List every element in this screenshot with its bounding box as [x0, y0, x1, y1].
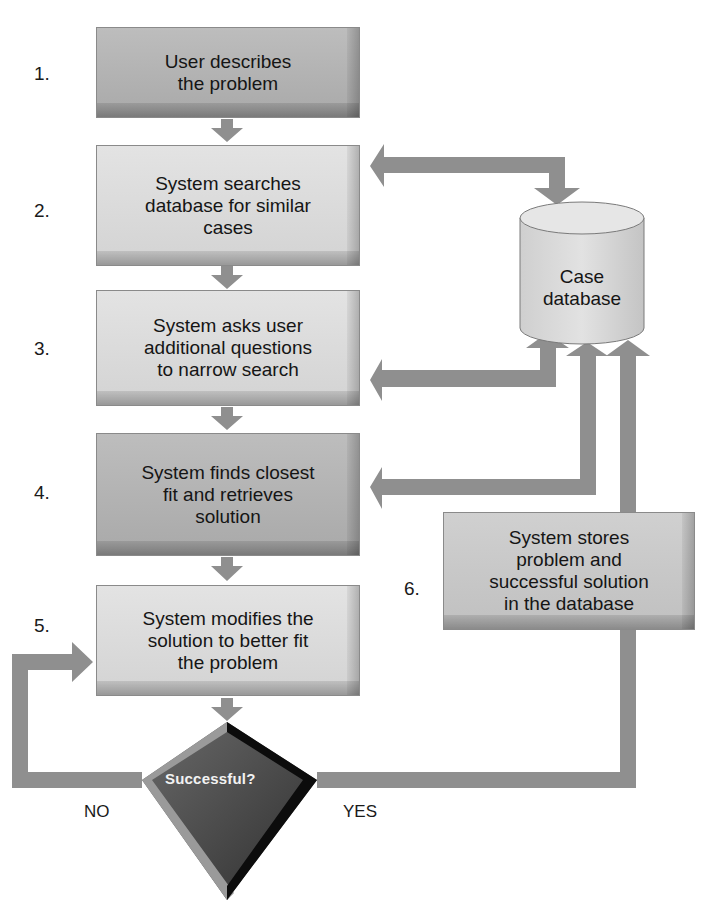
step-6-box: System stores problem and successful sol…	[443, 512, 695, 630]
step-5-box: System modifies the solution to better f…	[96, 585, 360, 696]
database-label: Case database	[520, 266, 644, 310]
step-4-box: System finds closest fit and retrieves s…	[96, 433, 360, 556]
step-3-box: System asks user additional questions to…	[96, 290, 360, 406]
step-6-text: System stores problem and successful sol…	[473, 527, 664, 615]
step-number: 6.	[404, 578, 420, 600]
down-arrow-icon	[211, 119, 243, 142]
decision-label: Successful?	[165, 770, 256, 787]
step-3-text: System asks user additional questions to…	[128, 315, 328, 381]
yes-branch-label: YES	[343, 802, 377, 822]
step-number: 3.	[34, 338, 50, 360]
no-branch-label: NO	[84, 802, 110, 822]
arrow-database-to-step4	[370, 342, 608, 509]
step-number: 4.	[34, 482, 50, 504]
down-arrow-icon	[211, 698, 243, 721]
down-arrow-icon	[211, 407, 243, 430]
step-2-box: System searches database for similar cas…	[96, 145, 360, 266]
step-1-box: User describes the problem	[96, 27, 360, 118]
step-1-text: User describes the problem	[149, 51, 308, 95]
decision-diamond-icon	[142, 722, 317, 900]
bidirectional-arrow-database-step2	[370, 144, 580, 205]
down-arrow-icon	[211, 266, 243, 289]
step-2-text: System searches database for similar cas…	[129, 173, 327, 239]
arrow-database-to-step3	[370, 333, 569, 401]
step-number: 1.	[34, 63, 50, 85]
step-number: 5.	[34, 615, 50, 637]
flowchart-canvas: 1. 2. 3. 4. 5. 6. User describes the pro…	[0, 0, 709, 924]
step-4-text: System finds closest fit and retrieves s…	[125, 462, 330, 528]
step-number: 2.	[34, 200, 50, 222]
down-arrow-icon	[211, 557, 243, 581]
step-5-text: System modifies the solution to better f…	[126, 608, 329, 674]
